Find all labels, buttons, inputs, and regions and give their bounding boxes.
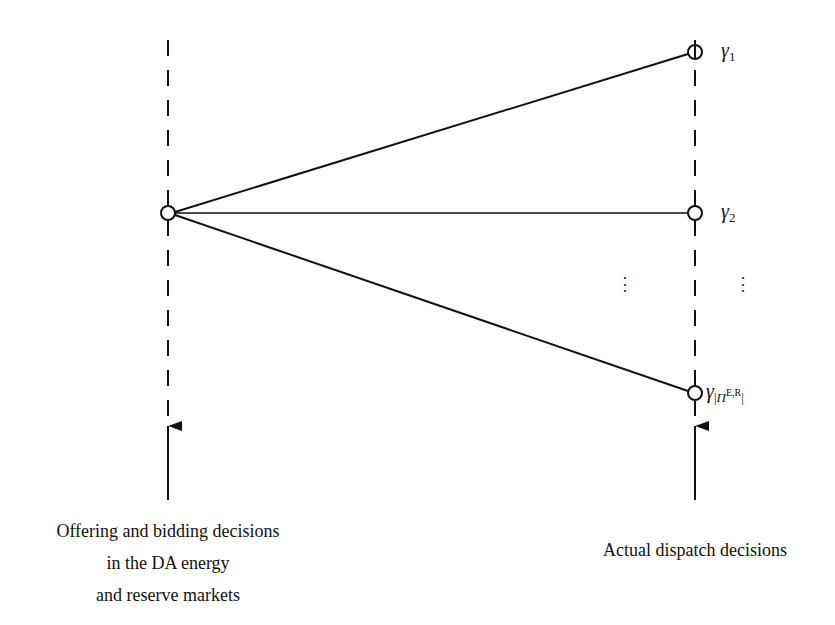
- gamma-subscript: 2: [729, 210, 736, 225]
- ellipsis-nodes: ⋮: [616, 280, 626, 289]
- root-node: [161, 206, 175, 220]
- gamma-subscript: |ΠE,R|: [714, 390, 744, 405]
- stage-1-label-line-3: and reserve markets: [0, 579, 336, 611]
- stage-1-label-line-2: in the DA energy: [0, 547, 336, 579]
- stage-1-label-line-1: Offering and bidding decisions: [0, 515, 336, 547]
- gamma-symbol: γ: [706, 380, 714, 402]
- leaf-node-gamma-last: [688, 386, 702, 400]
- pi-symbol: Π: [717, 390, 726, 405]
- pi-superscript: E,R: [726, 387, 741, 398]
- branch-to-gamma-1: [175, 54, 688, 212]
- gamma-2-label: γ2: [721, 200, 735, 226]
- gamma-symbol: γ: [721, 39, 729, 61]
- gamma-1-label: γ1: [721, 39, 735, 65]
- stage-2-label: Actual dispatch decisions: [575, 540, 815, 561]
- gamma-subscript: 1: [729, 49, 736, 64]
- branch-to-gamma-last: [175, 215, 688, 391]
- ellipsis-labels: ⋮: [734, 280, 744, 289]
- vertical-ellipsis: ⋮: [616, 274, 634, 294]
- gamma-symbol: γ: [721, 200, 729, 222]
- abs-close: |: [741, 390, 744, 405]
- leaf-node-gamma-2: [688, 206, 702, 220]
- gamma-last-label: γ|ΠE,R|: [706, 380, 744, 406]
- stage-2-label-line-1: Actual dispatch decisions: [575, 540, 815, 561]
- stage-1-label: Offering and bidding decisions in the DA…: [0, 515, 336, 611]
- vertical-ellipsis: ⋮: [734, 274, 752, 294]
